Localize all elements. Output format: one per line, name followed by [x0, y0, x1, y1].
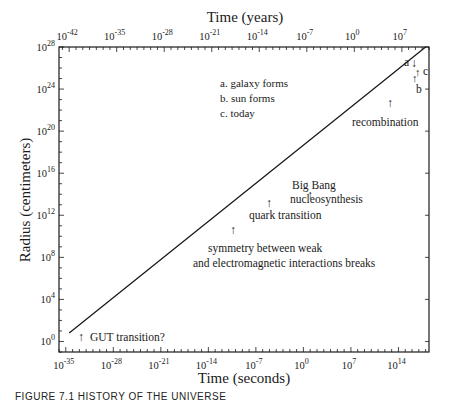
- top-axis-title: Time (years): [207, 9, 284, 26]
- bottom-axis-title: Time (seconds): [198, 370, 290, 387]
- marker-b-label: b: [416, 83, 422, 95]
- annotation-quark: quark transition: [249, 209, 322, 222]
- arrow-up-icon: ↑: [78, 330, 84, 344]
- annotation-recombination: recombination: [352, 116, 419, 128]
- annotation-symmetry-1: symmetry between weak: [208, 242, 323, 255]
- marker-a-label: a: [404, 56, 409, 68]
- tick-label: 10-35: [53, 357, 74, 371]
- tick-label: 10-14: [196, 357, 217, 371]
- annotation-gut: GUT transition?: [90, 331, 165, 343]
- legend-entry-b: b. sun forms: [220, 92, 275, 104]
- legend-entry-c: c. today: [220, 107, 255, 119]
- annotation-bigbang-2: nucleosynthesis: [290, 193, 363, 206]
- tick-label: 10-21: [148, 357, 169, 371]
- tick-label: 1028: [37, 39, 56, 53]
- figure-caption: FIGURE 7.1 HISTORY OF THE UNIVERSE: [15, 391, 226, 402]
- tick-label: 10-21: [199, 28, 220, 42]
- tick-label: 10-14: [247, 28, 268, 42]
- tick-label: 100: [294, 357, 309, 371]
- left-axis-title: Radius (centimeters): [17, 138, 34, 263]
- tick-label: 1014: [387, 357, 406, 371]
- annotation-bigbang-1: Big Bang: [292, 179, 336, 192]
- radius-curve: [69, 47, 425, 333]
- marker-c-label: c: [423, 65, 428, 77]
- tick-label: 104: [41, 291, 56, 305]
- tick-label: 107: [342, 357, 357, 371]
- arrow-up-icon: ↑: [230, 223, 236, 237]
- tick-label: 10-28: [152, 28, 173, 42]
- tick-label: 10-7: [245, 357, 262, 371]
- tick-label: 10-42: [57, 28, 78, 42]
- tick-label: 1020: [37, 123, 56, 137]
- tick-label: 1012: [37, 207, 56, 221]
- tick-label: 108: [41, 249, 56, 263]
- tick-label: 107: [393, 28, 408, 42]
- annotation-symmetry-2: and electromagnetic interactions breaks: [193, 257, 376, 270]
- tick-label: 10-7: [296, 28, 313, 42]
- legend-entry-a: a. galaxy forms: [220, 77, 288, 89]
- tick-label: 10-28: [101, 357, 122, 371]
- arrow-up-icon: ↑: [387, 96, 393, 110]
- legend: a. galaxy forms b. sun forms c. today: [220, 77, 288, 119]
- tick-label: 1016: [37, 165, 56, 179]
- tick-label: 100: [41, 333, 56, 347]
- tick-label: 100: [345, 28, 360, 42]
- tick-label: 1024: [37, 81, 56, 95]
- arrow-up-icon: ↑: [266, 196, 272, 210]
- tick-label: 10-35: [104, 28, 125, 42]
